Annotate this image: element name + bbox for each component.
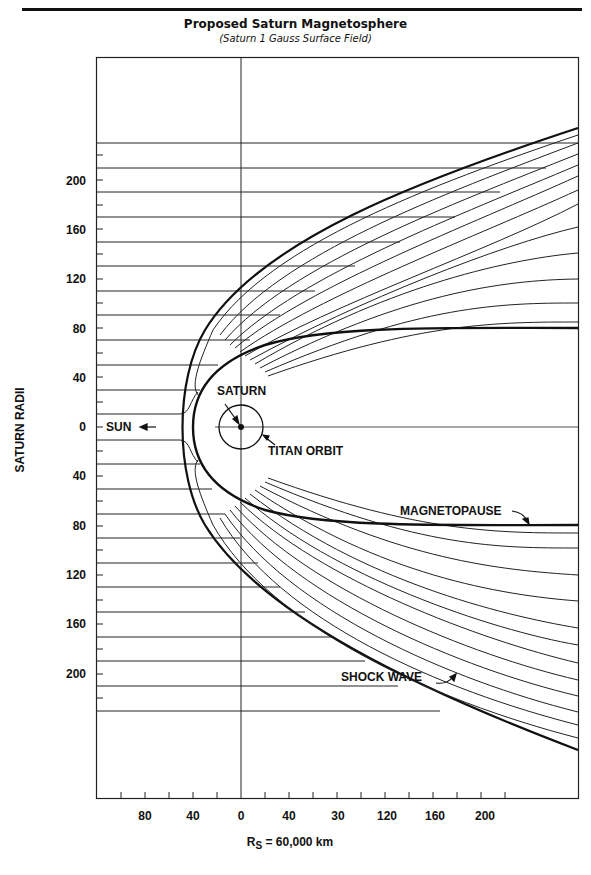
y-tick: 160 xyxy=(46,617,86,631)
x-axis-label: RS = 60,000 km xyxy=(200,835,380,851)
y-tick: 0 xyxy=(46,420,86,434)
x-tick: 40 xyxy=(173,809,213,823)
magnetopause-label: MAGNETOPAUSE xyxy=(400,504,502,518)
x-tick: 0 xyxy=(221,809,261,823)
x-tick: 40 xyxy=(269,809,309,823)
y-tick: 160 xyxy=(46,223,86,237)
y-tick: 120 xyxy=(46,272,86,286)
y-axis-label: SATURN RADII xyxy=(13,370,27,490)
shock-wave-label: SHOCK WAVE xyxy=(341,670,422,684)
titan-orbit-label: TITAN ORBIT xyxy=(268,444,343,458)
y-tick: 200 xyxy=(46,174,86,188)
y-tick: 80 xyxy=(46,519,86,533)
x-tick: 80 xyxy=(125,809,165,823)
y-tick: 40 xyxy=(46,371,86,385)
y-tick: 120 xyxy=(46,568,86,582)
y-tick: 80 xyxy=(46,322,86,336)
y-tick: 200 xyxy=(46,667,86,681)
x-tick: 30 xyxy=(318,809,358,823)
sun-label: SUN xyxy=(106,420,131,434)
y-tick: 40 xyxy=(46,469,86,483)
x-tick: 160 xyxy=(415,809,455,823)
saturn-label: SATURN xyxy=(217,384,266,398)
magnetosphere-diagram xyxy=(0,0,591,875)
x-tick: 200 xyxy=(465,809,505,823)
x-tick: 120 xyxy=(367,809,407,823)
